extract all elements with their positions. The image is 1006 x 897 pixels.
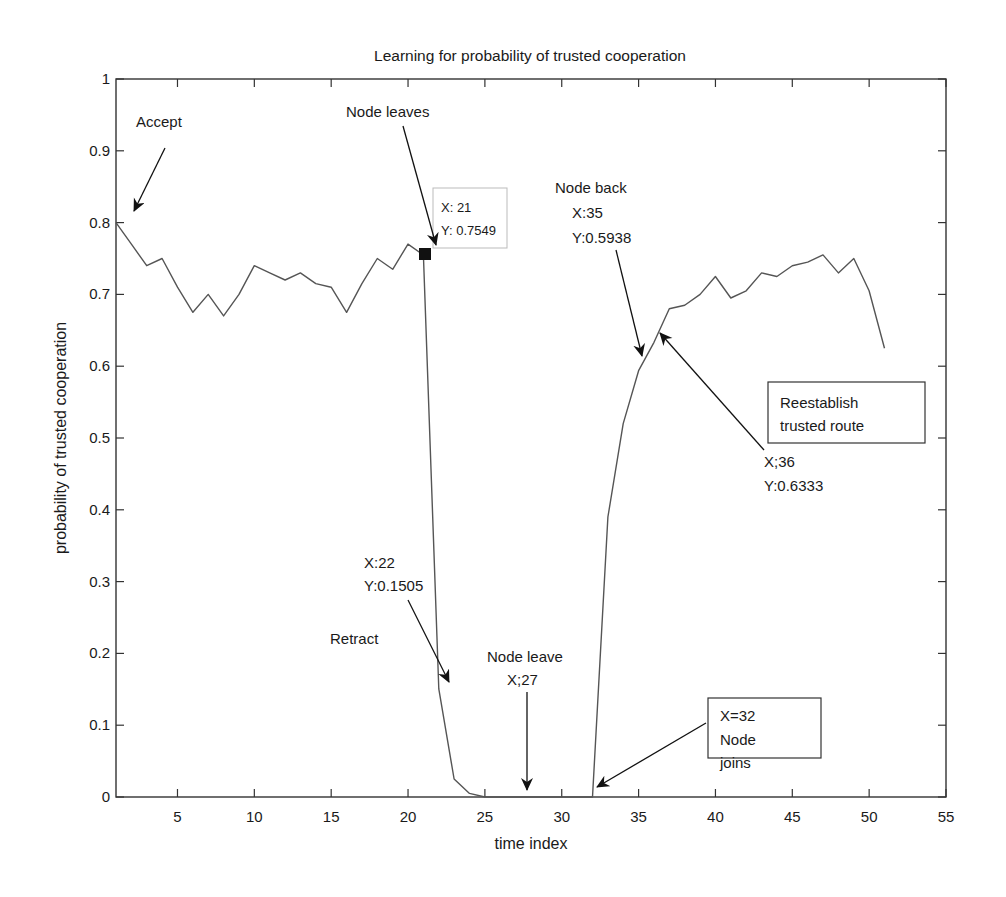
annotation-node-joins-2: Node [720,731,756,748]
annotation-reestablish-1: Reestablish [780,394,858,411]
annotation-node-leaves: Node leaves [346,103,429,120]
y-tick-label: 0.9 [89,142,110,159]
annotation-reestablish-x: X;36 [764,453,795,470]
x-tick-label: 45 [784,808,801,825]
annotation-accept: Accept [136,113,183,130]
annotation-node-back: Node back [555,179,627,196]
y-axis-label: probability of trusted cooperation [52,322,69,554]
x-axis-label: time index [495,835,568,852]
annotation-node-joins-1: X=32 [720,707,755,724]
x-tick-label: 5 [173,808,181,825]
y-tick-label: 0.2 [89,644,110,661]
annotation-node-leave: Node leave [487,648,563,665]
x-tick-label: 15 [323,808,340,825]
y-tick-labels: 00.10.20.30.40.50.60.70.80.91 [89,70,110,805]
annotation-retract: Retract [330,630,379,647]
datatip-marker[interactable] [419,248,431,260]
annotation-reestablish-2: trusted route [780,417,864,434]
x-tick-label: 20 [400,808,417,825]
y-tick-label: 0.4 [89,501,110,518]
y-tick-label: 1 [102,70,110,87]
x-tick-label: 55 [938,808,955,825]
datatip-x: X: 21 [441,200,471,215]
x-tick-label: 35 [630,808,647,825]
arrow-icon [660,333,764,450]
datatip-y: Y: 0.7549 [441,223,496,238]
arrow-icon [134,148,165,211]
annotation-node-back-y: Y:0.5938 [572,229,631,246]
annotation-retract-y: Y:0.1505 [364,577,423,594]
annotation-node-leave-x: X;27 [507,671,538,688]
arrow-icon [616,250,642,356]
y-tick-label: 0.6 [89,357,110,374]
annotation-reestablish-y: Y:0.6333 [764,477,823,494]
x-tick-labels: 510152025303540455055 [173,808,954,825]
y-tick-label: 0.8 [89,214,110,231]
y-tick-label: 0 [102,788,110,805]
x-tick-label: 50 [861,808,878,825]
y-tick-label: 0.1 [89,716,110,733]
x-tick-label: 10 [246,808,263,825]
x-tick-label: 40 [707,808,724,825]
y-tick-label: 0.5 [89,429,110,446]
chart-title: Learning for probability of trusted coop… [374,47,686,64]
x-tick-label: 30 [553,808,570,825]
arrow-icon [597,723,706,787]
x-tick-label: 25 [477,808,494,825]
annotation-retract-x: X:22 [364,554,395,571]
annotation-node-joins-3: joins [719,754,751,771]
annotation-node-back-x: X:35 [572,204,603,221]
arrow-icon [408,600,449,682]
datatip-box [433,188,507,248]
y-tick-label: 0.7 [89,285,110,302]
figure-caption-cut-off [150,886,910,897]
line-chart: Learning for probability of trusted coop… [0,0,1006,897]
arrow-icon [403,126,436,245]
y-tick-label: 0.3 [89,573,110,590]
